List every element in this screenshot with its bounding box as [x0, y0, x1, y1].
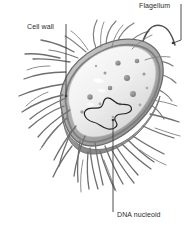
label-flagellum: Flagellum [139, 2, 170, 10]
leader-dot-cell-wall [65, 95, 68, 98]
leader-dot-flagellum [172, 42, 175, 45]
label-cell-wall: Cell wall [27, 23, 54, 31]
leader-line-flagellum [173, 4, 181, 43]
leader-dot-dna-nucleoid [112, 119, 115, 122]
label-dna-nucleoid: DNA nucleoid [117, 211, 161, 219]
bacterial-cell-figure: Flagellum Cell wall DNA nucleoid [0, 0, 187, 236]
cell-illustration-canvas [0, 0, 187, 236]
